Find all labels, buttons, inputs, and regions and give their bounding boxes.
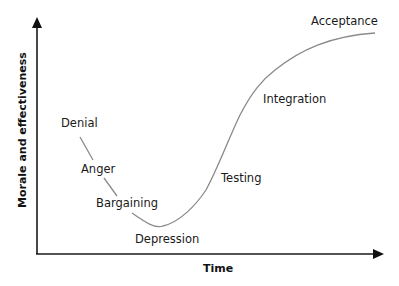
stage-label-integration: Integration [263,94,326,106]
stage-label-depression: Depression [135,234,199,246]
x-axis-label: Time [203,263,233,274]
curve-segment-denial-anger [80,137,93,160]
y-axis-label: Morale and effectiveness [17,52,28,208]
x-axis-arrow-icon [373,249,384,259]
stage-label-testing: Testing [221,173,261,185]
curve-segment-depression-acceptance [132,33,375,227]
curve-segment-anger-bargaining [104,178,117,196]
stage-label-anger: Anger [81,164,115,176]
change-curve-diagram [0,0,399,286]
y-axis-arrow-icon [32,17,42,28]
stage-label-bargaining: Bargaining [96,198,158,210]
stage-label-acceptance: Acceptance [311,16,378,28]
stage-label-denial: Denial [61,118,98,130]
